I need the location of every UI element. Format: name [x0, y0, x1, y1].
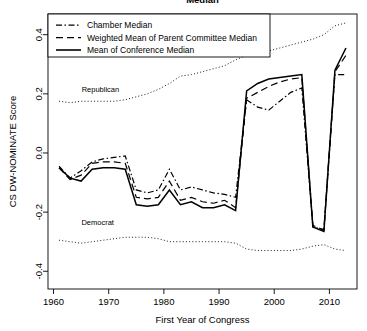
x-axis-title: First Year of Congress	[156, 314, 250, 325]
y-axis-title: CS DW-NOMINATE Score	[7, 96, 18, 208]
y-tick-label: -0.2	[34, 204, 45, 220]
y-tick-label: -0.4	[34, 263, 45, 279]
x-tick-label: 1970	[98, 296, 119, 307]
series-annotation: Democrat	[81, 218, 114, 227]
x-tick-label: 1960	[43, 296, 64, 307]
legend-label: Weighted Mean of Parent Committee Median	[87, 33, 257, 43]
series-annotation: Republican	[82, 85, 120, 94]
x-tick-label: 2000	[264, 296, 285, 307]
x-tick-label: 1980	[153, 296, 174, 307]
y-tick-label: 0.0	[34, 146, 45, 159]
legend: Chamber MedianWeighted Mean of Parent Co…	[48, 14, 270, 57]
y-tick-label: 0.2	[34, 87, 45, 100]
chart-title: Median	[186, 0, 219, 5]
series-line	[59, 48, 346, 231]
y-tick-label: 0.4	[34, 28, 45, 41]
line-chart: 196019701980199020002010-0.4-0.20.00.20.…	[0, 0, 367, 331]
legend-label: Chamber Median	[87, 20, 152, 30]
chart-page: 196019701980199020002010-0.4-0.20.00.20.…	[0, 0, 367, 331]
series-line	[59, 237, 346, 250]
x-tick-label: 1990	[208, 296, 229, 307]
legend-label: Mean of Conference Median	[87, 45, 195, 55]
x-tick-label: 2010	[319, 296, 340, 307]
